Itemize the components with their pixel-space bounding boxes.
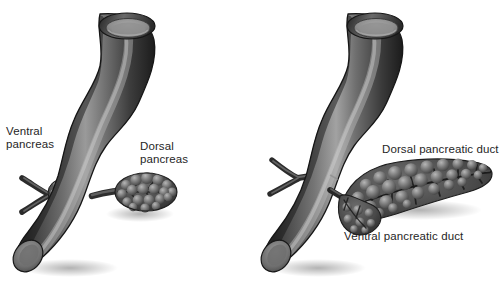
label-ventral-pancreatic-duct-text: Ventral pancreatic duct <box>344 230 463 242</box>
label-dorsal-pancreas-line1: Dorsal <box>140 140 174 152</box>
label-dorsal-pancreatic-duct-text: Dorsal pancreatic duct <box>382 143 499 155</box>
label-dorsal-pancreas: Dorsalpancreas <box>140 140 188 166</box>
label-ventral-pancreas: Ventralpancreas <box>6 125 54 151</box>
label-ventral-pancreatic-duct: Ventral pancreatic duct <box>344 230 463 243</box>
label-ventral-pancreas-line2: pancreas <box>6 138 54 150</box>
right-fused-pancreas <box>338 158 492 234</box>
label-dorsal-pancreatic-duct: Dorsal pancreatic duct <box>382 143 499 156</box>
left-dorsal-pancreas-bud <box>115 172 177 212</box>
label-dorsal-pancreas-line2: pancreas <box>140 153 188 165</box>
label-ventral-pancreas-line1: Ventral <box>6 125 43 137</box>
